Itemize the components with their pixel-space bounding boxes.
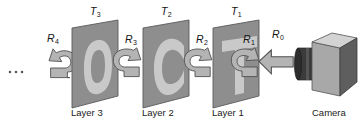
layer-transmittance-label-1: T1	[231, 5, 242, 18]
camera-body-side	[340, 38, 357, 96]
layer-transmittance-label-3: T3	[90, 5, 101, 18]
continuation-ellipsis	[9, 71, 24, 74]
ray-label-r4: R4	[47, 32, 59, 45]
layer-caption-1: Layer 1	[212, 107, 244, 118]
camera-body-front	[312, 42, 340, 96]
ray-label-r3: R3	[125, 33, 137, 46]
layer-plane-2	[143, 20, 189, 108]
ray-arrow-r0	[259, 50, 293, 74]
layer-transmittance-label-2: T2	[161, 5, 172, 18]
figure-canvas: R4 T3 Layer 3 R3 T2 Layer 2 R2 T1 Layer …	[0, 0, 362, 125]
layer-plane-3	[72, 20, 118, 108]
ray-label-r2: R2	[196, 33, 208, 46]
camera-caption: Camera	[312, 107, 347, 118]
camera-lens	[294, 48, 314, 80]
layer-caption-3: Layer 3	[71, 107, 103, 118]
ray-label-r0: R0	[272, 28, 284, 41]
layer-caption-2: Layer 2	[142, 107, 174, 118]
camera-illustration	[294, 33, 357, 96]
